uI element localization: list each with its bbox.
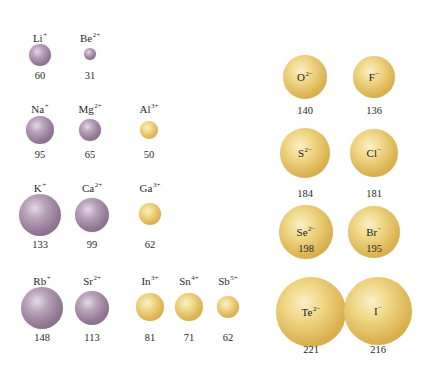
ion-radius-value: 198: [298, 244, 314, 255]
ion-label: In3+: [141, 275, 158, 287]
ion-radius-value: 62: [145, 240, 156, 251]
ion-sphere: [75, 198, 109, 232]
ion-charge: −: [377, 146, 381, 154]
ion-charge: 2+: [94, 102, 101, 110]
ion-label: Be2+: [80, 32, 100, 44]
ion-symbol: Li: [33, 32, 43, 44]
ion-radius-value: 95: [35, 150, 46, 161]
ion-charge: −: [378, 304, 382, 312]
ion-symbol: Ca: [82, 182, 94, 194]
ion-label: Al3+: [140, 103, 159, 115]
ion-symbol: Br: [366, 226, 377, 238]
ion-charge: 3+: [151, 102, 158, 110]
ion-radius-value: 71: [184, 333, 195, 344]
ion-charge: 2+: [93, 274, 100, 282]
ion-label: Na+: [31, 103, 48, 115]
ion-charge: 3+: [153, 181, 160, 189]
ion-radius-value: 62: [223, 333, 234, 344]
ion-radius-value: 221: [303, 345, 319, 356]
ion-charge: 5+: [230, 274, 237, 282]
ion-label: Rb+: [33, 275, 50, 287]
ion-label: Te2−: [302, 306, 321, 318]
ion-charge: 2+: [93, 31, 100, 39]
ion-label: Se2−: [297, 226, 316, 238]
ion-label: S2−: [298, 147, 312, 159]
ion-sphere: [29, 44, 51, 66]
ion-charge: 2+: [95, 181, 102, 189]
ion-label: K+: [34, 182, 46, 194]
ion-label: Ca2+: [82, 182, 102, 194]
ion-radius-value: 140: [297, 106, 313, 117]
ion-sphere: [84, 48, 96, 60]
ion-radius-value: 216: [370, 345, 386, 356]
ion-charge: −: [375, 70, 379, 78]
ion-label: F−: [369, 71, 380, 83]
ion-symbol: F: [369, 71, 375, 83]
ion-label: Mg2+: [78, 103, 101, 115]
ion-symbol: Al: [140, 103, 151, 115]
ion-label: O2−: [297, 71, 313, 83]
ion-radius-value: 133: [32, 240, 48, 251]
ion-radius-value: 65: [85, 150, 96, 161]
ion-symbol: S: [298, 147, 304, 159]
ion-radius-value: 81: [145, 333, 156, 344]
ion-charge: 2−: [305, 146, 312, 154]
ion-sphere: [136, 293, 164, 321]
ion-charge: +: [47, 274, 51, 282]
ion-symbol: Ga: [140, 182, 153, 194]
ion-charge: 2−: [308, 225, 315, 233]
ion-radius-value: 184: [297, 189, 313, 200]
ion-radius-value: 181: [366, 189, 382, 200]
ion-symbol: K: [34, 182, 42, 194]
ion-radius-value: 148: [34, 333, 50, 344]
ion-symbol: Rb: [33, 275, 46, 287]
ion-charge: 2−: [313, 305, 320, 313]
ion-radius-value: 99: [87, 240, 98, 251]
ion-sphere: [75, 291, 109, 325]
ion-symbol: Se: [297, 226, 308, 238]
ion-charge: −: [378, 225, 382, 233]
ion-sphere: [21, 287, 63, 329]
ion-label: Sn4+: [179, 275, 199, 287]
ion-radius-value: 31: [85, 71, 96, 82]
ion-radius-value: 195: [366, 244, 382, 255]
ion-symbol: Sb: [218, 275, 230, 287]
ion-charge: +: [42, 181, 46, 189]
ion-symbol: Cl: [367, 147, 377, 159]
ion-symbol: Mg: [78, 103, 93, 115]
ion-sphere: [19, 194, 61, 236]
ion-sphere: [139, 203, 161, 225]
ion-charge: 3+: [151, 274, 158, 282]
ion-symbol: Sn: [179, 275, 191, 287]
ion-symbol: O: [297, 71, 305, 83]
ion-sphere: [140, 121, 158, 139]
ion-sphere: [26, 116, 54, 144]
ion-label: Ga3+: [140, 182, 161, 194]
ion-sphere: [175, 293, 203, 321]
ion-sphere: [79, 119, 101, 141]
ion-sphere: [217, 296, 239, 318]
ion-label: Li+: [33, 32, 47, 44]
ion-charge: +: [43, 31, 47, 39]
ion-symbol: Sr: [83, 275, 93, 287]
ion-label: Cl−: [367, 147, 382, 159]
ion-label: Sr2+: [83, 275, 101, 287]
ion-radius-value: 50: [144, 150, 155, 161]
ion-label: Sb5+: [218, 275, 238, 287]
ion-symbol: In: [141, 275, 150, 287]
ion-label: Br−: [366, 226, 381, 238]
ion-symbol: Na: [31, 103, 44, 115]
ion-charge: 2−: [306, 70, 313, 78]
ion-charge: +: [45, 102, 49, 110]
ion-charge: 4+: [191, 274, 198, 282]
ion-symbol: Be: [80, 32, 92, 44]
ion-radius-value: 136: [366, 106, 382, 117]
ion-radius-value: 60: [35, 71, 46, 82]
ion-radius-value: 113: [84, 333, 99, 344]
ion-symbol: Te: [302, 306, 313, 318]
ion-label: I−: [374, 305, 382, 317]
